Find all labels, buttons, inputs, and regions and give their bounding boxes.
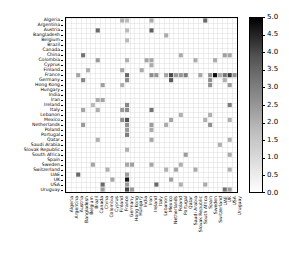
y-tick-mark (61, 185, 63, 186)
y-tick-mark (61, 130, 63, 131)
colorbar-tick-mark (263, 17, 265, 18)
x-tick-label-uruguay: Uruguay (237, 196, 242, 216)
y-tick-mark (61, 30, 63, 31)
x-tick-label-south-africa: South Africa (203, 196, 208, 224)
colorbar-tick-mark (263, 52, 265, 53)
colorbar-tick-mark (263, 35, 265, 36)
y-tick-mark (61, 125, 63, 126)
y-tick-mark (61, 150, 63, 151)
y-tick-mark (61, 25, 63, 26)
colorbar-tick-mark (263, 192, 265, 193)
colorbar-tick-label-2.0: 2.0 (267, 119, 278, 126)
y-tick-mark (61, 135, 63, 136)
y-tick-mark (61, 140, 63, 141)
y-tick-mark (61, 120, 63, 121)
y-tick-mark (61, 90, 63, 91)
y-tick-mark (61, 55, 63, 56)
y-tick-mark (61, 105, 63, 106)
y-tick-mark (61, 160, 63, 161)
y-tick-mark (61, 190, 63, 191)
colorbar-tick-mark (263, 158, 265, 159)
x-tick-label-cyprus: Cyprus (114, 196, 119, 212)
colorbar-tick-label-1.5: 1.5 (267, 137, 278, 144)
colorbar-tick-label-0.0: 0.0 (267, 190, 278, 197)
y-axis-tick-labels: AlgeriaArgentinaAustriaBangladeshBelgium… (0, 17, 63, 193)
colorbar-tick-label-0.5: 0.5 (267, 172, 278, 179)
y-tick-mark (61, 180, 63, 181)
x-tick-label-spain: Spain (208, 196, 213, 209)
colorbar-tick-label-5.0: 5.0 (267, 14, 278, 21)
heatmap-plot-area (65, 17, 238, 193)
y-tick-mark (61, 155, 63, 156)
colorbar-tick-label-4.5: 4.5 (267, 31, 278, 38)
colorbar-tick-label-3.5: 3.5 (267, 66, 278, 73)
y-tick-mark (61, 75, 63, 76)
x-tick-label-germany: Germany (129, 196, 134, 217)
colorbar-tick-mark (263, 70, 265, 71)
y-tick-mark (61, 45, 63, 46)
y-tick-mark (61, 110, 63, 111)
y-tick-mark (61, 145, 63, 146)
colorbar-tick-label-1.0: 1.0 (267, 154, 278, 161)
colorbar-tick-mark (263, 87, 265, 88)
y-tick-mark (61, 80, 63, 81)
x-axis-tick-labels: AlgeriaArgentinaAustriaBangladeshBelgium… (65, 194, 240, 256)
y-tick-mark (61, 65, 63, 66)
colorbar-gradient (249, 17, 263, 193)
x-tick-label-france: France (124, 196, 129, 211)
x-tick-label-sweden: Sweden (213, 196, 218, 214)
y-tick-mark (61, 60, 63, 61)
heatmap-figure: AlgeriaArgentinaAustriaBangladeshBelgium… (0, 0, 289, 258)
x-tick-label-finland: Finland (119, 196, 124, 212)
y-tick-mark (61, 85, 63, 86)
colorbar-tick-label-4.0: 4.0 (267, 49, 278, 56)
y-tick-mark (61, 20, 63, 21)
y-tick-mark (61, 115, 63, 116)
y-tick-mark (61, 70, 63, 71)
colorbar-tick-mark (263, 123, 265, 124)
colorbar-tick-mark (263, 140, 265, 141)
y-tick-mark (61, 35, 63, 36)
colorbar: 0.00.51.01.52.02.53.03.54.04.55.0 (249, 17, 263, 193)
y-tick-label-uruguay: Uruguay (40, 187, 60, 193)
colorbar-tick-label-3.0: 3.0 (267, 84, 278, 91)
y-tick-mark (61, 50, 63, 51)
y-tick-mark (61, 100, 63, 101)
y-tick-mark (61, 40, 63, 41)
y-tick-mark (61, 165, 63, 166)
colorbar-tick-label-2.5: 2.5 (267, 102, 278, 109)
y-tick-mark (61, 95, 63, 96)
colorbar-tick-mark (263, 175, 265, 176)
x-tick-label-switzerland: Switzerland (218, 196, 223, 223)
heatmap-cells (66, 18, 237, 192)
colorbar-tick-mark (263, 105, 265, 106)
y-tick-mark (61, 175, 63, 176)
y-tick-mark (61, 170, 63, 171)
